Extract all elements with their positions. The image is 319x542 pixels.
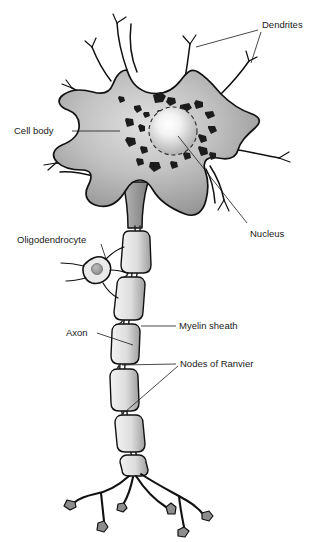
- myelin-segment: [115, 415, 145, 452]
- neuron-illustration: Dendrites Cell body Nucleus Oligodendroc…: [0, 0, 319, 542]
- label-myelin-sheath: Myelin sheath: [179, 320, 238, 331]
- label-dendrites: Dendrites: [262, 19, 303, 30]
- diagram-background: [0, 0, 319, 542]
- label-cell-body: Cell body: [14, 125, 54, 136]
- nucleus: [149, 107, 197, 155]
- myelin-segment: [110, 369, 139, 411]
- label-nucleus: Nucleus: [250, 228, 285, 239]
- neuron-diagram: Dendrites Cell body Nucleus Oligodendroc…: [0, 0, 319, 542]
- label-nodes-of-ranvier: Nodes of Ranvier: [180, 358, 253, 369]
- myelin-segment: [120, 455, 148, 476]
- myelin-segment: [111, 324, 140, 364]
- label-oligodendrocyte: Oligodendrocyte: [17, 234, 86, 245]
- label-axon: Axon: [66, 327, 88, 338]
- myelin-segment: [114, 277, 145, 320]
- oligodendrocyte-nucleus: [92, 264, 103, 275]
- myelin-segment: [121, 231, 151, 273]
